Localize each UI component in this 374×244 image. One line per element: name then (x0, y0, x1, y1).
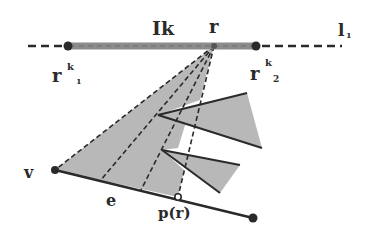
point-r-dot (211, 43, 217, 49)
label-r2: r (250, 63, 260, 84)
label-e: e (106, 191, 116, 210)
label-r1: r (52, 65, 62, 86)
label-interval: Ik (152, 17, 175, 39)
endpoint-r1-dot (64, 42, 73, 51)
label-line: l (338, 20, 345, 40)
label-r2-sup: k (265, 57, 273, 68)
label-r1-sub: 1 (76, 76, 82, 86)
label-r2-sub: 2 (273, 74, 279, 84)
label-r: r (209, 16, 219, 37)
label-v: v (23, 163, 34, 182)
endpoint-r2-dot (252, 42, 261, 51)
label-r1-sup: k (67, 61, 75, 72)
label-line-sub: 1 (346, 30, 352, 40)
vertex-v-dot (51, 166, 59, 174)
label-projection: p(r) (158, 204, 191, 222)
projection-dot (175, 194, 181, 200)
visibility-diagram: Ik r l 1 r k 1 r k 2 v e p(r) (0, 0, 374, 244)
edge-end-dot (249, 214, 258, 223)
